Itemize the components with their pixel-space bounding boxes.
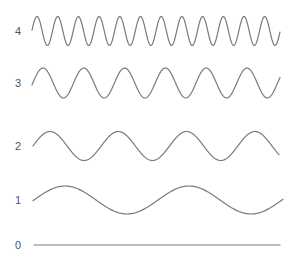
row-label-2: 2 — [11, 140, 25, 152]
row-label-3: 3 — [11, 77, 25, 89]
row-label-1: 1 — [11, 194, 25, 206]
wave-figure: 4 3 2 1 0 — [0, 0, 296, 261]
wave-line-2 — [33, 132, 279, 161]
row-label-0: 0 — [11, 239, 25, 251]
wave-line-3 — [32, 68, 280, 98]
row-label-4: 4 — [11, 25, 25, 37]
wave-line-4 — [32, 17, 280, 46]
wave-line-1 — [33, 186, 283, 214]
waves-canvas — [0, 0, 296, 261]
